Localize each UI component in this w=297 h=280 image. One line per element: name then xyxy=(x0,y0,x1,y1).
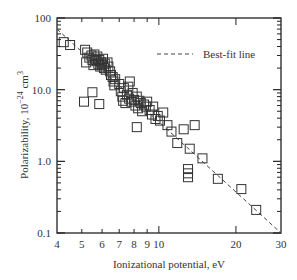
data-points xyxy=(59,38,260,215)
x-tick-label: 9 xyxy=(144,238,150,250)
data-point-square xyxy=(179,125,188,134)
y-tick-label: 0.1 xyxy=(37,227,51,239)
legend: Best-fit line xyxy=(157,48,255,60)
x-tick-label: 8 xyxy=(131,238,137,250)
x-tick-label: 10 xyxy=(153,238,165,250)
y-tick-label: 1.0 xyxy=(37,155,51,167)
data-point-square xyxy=(59,38,68,47)
y-axis-title: Polarizability, 10−24 cm3 xyxy=(16,71,30,179)
scatter-chart: 456789102030 0.11.010.0100 Best-fit line… xyxy=(0,0,297,280)
y-tick-label: 100 xyxy=(35,12,52,24)
data-point-square xyxy=(95,100,104,109)
x-tick-label: 6 xyxy=(99,238,105,250)
x-tick-label: 5 xyxy=(79,238,85,250)
legend-label: Best-fit line xyxy=(203,48,255,60)
x-tick-label: 30 xyxy=(276,238,288,250)
data-point-square xyxy=(66,41,75,50)
data-point-square xyxy=(237,185,246,194)
data-point-square xyxy=(132,123,141,132)
y-tick-label: 10.0 xyxy=(32,84,52,96)
data-point-square xyxy=(184,173,193,182)
x-tick-label: 4 xyxy=(54,238,60,250)
x-axis-title: Ionizational potential, eV xyxy=(113,258,225,270)
x-tick-label: 7 xyxy=(116,238,122,250)
data-point-square xyxy=(88,88,97,97)
x-tick-label: 20 xyxy=(230,238,242,250)
data-point-square xyxy=(185,144,194,153)
data-point-square xyxy=(190,121,199,130)
data-point-square xyxy=(80,97,89,106)
data-point-square xyxy=(173,139,182,148)
